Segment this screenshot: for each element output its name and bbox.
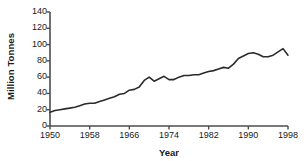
x-tick-label: 1998 xyxy=(268,131,307,140)
x-tick-label: 1990 xyxy=(228,131,268,140)
x-axis-title: Year xyxy=(50,147,288,158)
axis-lines xyxy=(50,12,288,126)
chart-container: Million Tonnes 020406080100120140 195019… xyxy=(0,0,307,161)
x-axis-title-text: Year xyxy=(159,147,179,158)
x-tick-label: 1950 xyxy=(30,131,70,140)
x-tick-label: 1966 xyxy=(109,131,149,140)
x-tick-label: 1974 xyxy=(149,131,189,140)
data-series-line xyxy=(50,49,288,113)
x-tick-label: 1982 xyxy=(189,131,229,140)
x-tick-label: 1958 xyxy=(70,131,110,140)
